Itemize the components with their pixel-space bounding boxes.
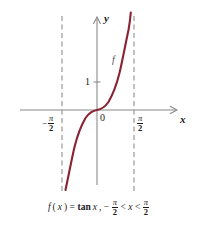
origin-label: 0	[100, 113, 105, 123]
fraction-pi-over-2-left: π 2	[48, 114, 54, 133]
caption-inequality-variable: x	[128, 203, 132, 213]
caption-comma: ,	[99, 203, 101, 213]
y-axis	[93, 17, 100, 185]
caption-tan-arg: x	[93, 203, 97, 213]
y-axis-label: y	[104, 13, 109, 24]
caption-function-name: f	[48, 203, 51, 213]
caption-open-paren: (	[53, 203, 56, 213]
caption-row: f(x) = tanx, − π 2 < x < π 2	[48, 198, 149, 217]
curve-label-f: f	[112, 55, 115, 65]
caption-fraction-right: π 2	[143, 198, 149, 217]
x-axis-label: x	[180, 114, 186, 125]
caption-variable: x	[58, 203, 62, 213]
x-tick-label-pi-over-2: π 2	[137, 114, 143, 133]
caption-fraction-left: π 2	[112, 198, 118, 217]
tangent-function-figure: y x 0 1 f − π 2 π 2 f(x) = tanx, − π 2	[0, 0, 197, 230]
caption-minus: −	[103, 203, 109, 213]
x-tick-label-neg-pi-over-2: − π 2	[42, 114, 54, 133]
minus-sign: −	[42, 119, 47, 128]
tan-curve	[66, 13, 131, 191]
caption-close-paren: )	[64, 203, 67, 213]
figure-caption: f(x) = tanx, − π 2 < x < π 2	[0, 198, 197, 217]
caption-less-than-left: <	[120, 203, 126, 213]
caption-less-than-right: <	[134, 203, 140, 213]
graph-canvas	[0, 0, 197, 230]
caption-equals: =	[69, 203, 75, 213]
fraction-denominator: 2	[112, 208, 118, 217]
fraction-denominator: 2	[143, 208, 149, 217]
y-tick-label-one: 1	[85, 77, 90, 87]
caption-tan: tan	[77, 203, 90, 213]
fraction-denominator: 2	[48, 124, 54, 133]
fraction-pi-over-2-right: π 2	[137, 114, 143, 133]
fraction-denominator: 2	[137, 124, 143, 133]
